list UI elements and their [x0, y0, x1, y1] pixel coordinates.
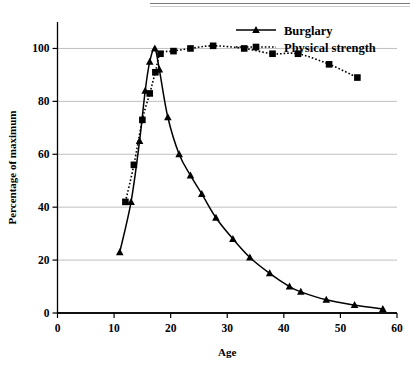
- data-point-marker: [146, 90, 153, 97]
- legend-item-1[interactable]: Burglary: [236, 24, 333, 38]
- data-point-marker: [131, 162, 138, 169]
- x-tick-label: 0: [55, 322, 61, 334]
- y-tick-label: 100: [32, 42, 50, 54]
- x-tick-label: 20: [165, 322, 177, 334]
- data-point-marker: [286, 283, 294, 290]
- x-axis-ticks: [58, 313, 398, 318]
- data-point-marker: [266, 269, 274, 276]
- legend-item-2[interactable]: Physical strength: [236, 41, 376, 55]
- data-point-marker: [170, 48, 177, 55]
- x-axis-title: Age: [218, 346, 236, 358]
- y-axis-ticks: [53, 48, 58, 313]
- x-tick-label: 50: [335, 322, 347, 334]
- data-point-marker: [354, 74, 361, 81]
- gridlines: [58, 48, 398, 313]
- data-point-marker: [122, 199, 129, 206]
- y-axis-title: Percentage of maximum: [6, 110, 18, 224]
- axes: [58, 22, 398, 313]
- x-tick-label: 40: [278, 322, 290, 334]
- series-2: [122, 43, 361, 206]
- data-point-marker: [269, 50, 276, 57]
- data-point-marker: [187, 45, 194, 52]
- top-rule-dark: [150, 3, 410, 4]
- data-point-marker: [151, 44, 159, 51]
- y-tick-label: 20: [38, 254, 50, 266]
- data-point-marker: [164, 113, 172, 120]
- data-series-layer: [116, 43, 387, 313]
- x-tick-label: 60: [391, 322, 403, 334]
- legend-label: Burglary: [284, 24, 333, 38]
- data-point-marker: [241, 45, 248, 52]
- y-tick-label: 0: [44, 307, 50, 319]
- data-point-marker: [139, 117, 146, 124]
- data-point-marker: [210, 43, 217, 50]
- y-tick-label: 60: [38, 148, 50, 160]
- data-point-marker: [157, 50, 164, 57]
- y-tick-label: 80: [38, 95, 50, 107]
- legend-label: Physical strength: [284, 41, 376, 55]
- x-axis-tick-labels: 0102030405060: [55, 322, 403, 334]
- x-tick-label: 30: [222, 322, 234, 334]
- x-tick-label: 10: [108, 322, 120, 334]
- data-point-marker: [187, 171, 195, 178]
- data-point-marker: [326, 61, 333, 68]
- data-point-marker: [116, 248, 124, 255]
- line-chart-plot: 0102030405060 020406080100 BurglaryPhysi…: [0, 0, 410, 369]
- legend-marker-sample: [253, 44, 260, 51]
- y-tick-label: 40: [38, 201, 50, 213]
- series-1: [116, 44, 387, 312]
- top-rule-light: [150, 6, 410, 7]
- chart-figure: 0102030405060 020406080100 BurglaryPhysi…: [0, 0, 410, 369]
- data-point-marker: [175, 150, 183, 157]
- data-point-marker: [146, 58, 154, 65]
- chart-legend: BurglaryPhysical strength: [236, 24, 376, 55]
- y-axis-tick-labels: 020406080100: [32, 42, 50, 319]
- data-point-marker: [152, 69, 159, 76]
- series-line: [120, 48, 383, 309]
